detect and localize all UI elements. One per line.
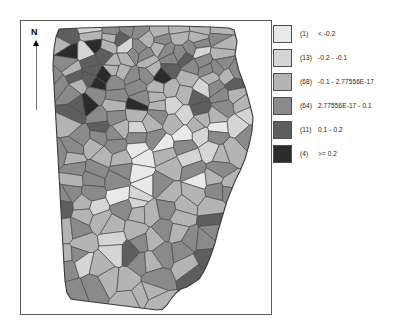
legend-range: 0.1 - 0.2 [318,126,343,134]
legend-item[interactable]: (4)>= 0.2 [273,142,399,166]
legend: (1)< -0.2 (13)-0.2 - -0.1 (68)-0.1 - 2.7… [273,22,399,166]
legend-swatch [273,73,292,91]
legend-count: (68) [300,78,315,86]
legend-count: (64) [300,102,315,110]
county-polygon[interactable] [193,248,271,314]
north-arrow-shaft [36,46,37,110]
legend-range: -0.1 - 2.77556E-17 [318,78,374,86]
legend-swatch [273,121,292,139]
legend-item[interactable]: (13)-0.2 - -0.1 [273,46,399,70]
legend-count: (1) [300,30,315,38]
legend-swatch [273,97,292,115]
legend-item[interactable]: (68)-0.1 - 2.77556E-17 [273,70,399,94]
legend-count: (11) [300,126,315,134]
county-polygon[interactable] [126,133,148,144]
legend-label: (1)< -0.2 [300,30,335,38]
county-polygon[interactable] [176,265,271,315]
legend-count: (4) [300,150,315,158]
legend-label: (4)>= 0.2 [300,150,337,158]
legend-swatch [273,25,292,43]
legend-label: (11)0.1 - 0.2 [300,126,343,134]
legend-label: (13)-0.2 - -0.1 [300,54,347,62]
county-polygon[interactable] [210,21,271,35]
map-data-frame[interactable] [21,21,271,314]
map-layout-frame: N [20,20,272,315]
legend-range: 2.77556E-17 - 0.1 [318,102,372,110]
county-polygon[interactable] [102,21,120,35]
legend-range: >= 0.2 [318,150,337,158]
legend-range: -0.2 - -0.1 [318,54,347,62]
legend-label: (64)2.77556E-17 - 0.1 [300,102,372,110]
legend-count: (13) [300,54,315,62]
legend-range: < -0.2 [318,30,335,38]
legend-item[interactable]: (1)< -0.2 [273,22,399,46]
legend-swatch [273,145,292,163]
legend-swatch [273,49,292,67]
legend-item[interactable]: (64)2.77556E-17 - 0.1 [273,94,399,118]
legend-label: (68)-0.1 - 2.77556E-17 [300,78,374,86]
north-arrow-icon: N [29,29,47,111]
legend-item[interactable]: (11)0.1 - 0.2 [273,118,399,142]
county-polygon[interactable] [21,218,73,244]
georgia-county-choropleth[interactable] [21,21,271,314]
north-arrow-label: N [31,27,38,37]
